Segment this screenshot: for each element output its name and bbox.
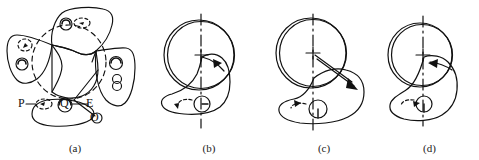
panel-c-caption: (c) [268, 142, 380, 154]
rotation-arrow-head [346, 78, 358, 90]
rotation-arrow-head [428, 59, 438, 68]
motion-arrow-curve [401, 100, 414, 106]
pivot-hole-left-mark [18, 60, 26, 64]
rocker-arm-outline [279, 69, 364, 124]
rotation-arrow-shaft [202, 57, 224, 71]
panel-c-arm-position-2: (c) [268, 0, 380, 160]
panel-a-composite-arm-positions: P Q E O (a) [0, 0, 150, 160]
panel-a-caption: (a) [0, 142, 150, 154]
label-q: Q [60, 96, 69, 111]
panel-a-drawing [0, 0, 150, 140]
panel-b-drawing [150, 0, 268, 140]
motion-arrow-head [294, 100, 301, 107]
label-o: O [90, 110, 99, 125]
panel-d-drawing [380, 0, 479, 140]
arrow-hint-right-lower [113, 82, 122, 91]
motion-arrow-curve [178, 99, 192, 105]
arrow-head-left [23, 43, 28, 48]
label-p: P [18, 96, 25, 111]
panel-b-arm-position-1: (b) [150, 0, 268, 160]
arm-outline-left [7, 35, 52, 83]
pivot-hole-right-mark [111, 58, 121, 63]
reference-circle-dashed [32, 25, 106, 99]
central-hub-lobe [52, 45, 98, 98]
panel-b-caption: (b) [150, 142, 268, 154]
panel-d-arm-position-3: (d) [380, 0, 479, 160]
panel-d-caption: (d) [380, 142, 479, 154]
panel-c-drawing [268, 0, 380, 140]
label-e: E [86, 96, 93, 111]
motion-arrow-head [174, 103, 179, 109]
pivot-hole-upper-mark [62, 20, 70, 24]
mechanism-figure: P Q E O (a) (b) [0, 0, 479, 160]
arrow-head-upper [79, 22, 84, 25]
